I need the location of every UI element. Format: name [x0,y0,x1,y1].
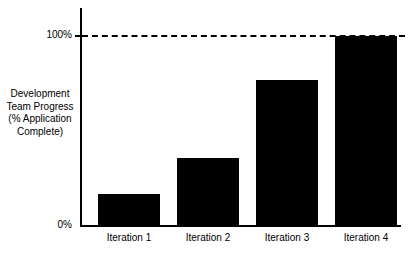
x-axis-label-iteration-4: Iteration 4 [327,232,405,243]
x-axis-label-iteration-1: Iteration 1 [90,232,168,243]
y-axis-title-line-3: (% Application [4,113,76,126]
y-axis-title-line-2: Team Progress [4,101,76,114]
bar-iteration-2 [177,158,239,226]
x-axis-label-iteration-2: Iteration 2 [169,232,247,243]
y-tick-label-100: 100% [0,29,72,40]
y-tick-label-0: 0% [0,219,72,230]
y-axis-title: Development Team Progress (% Application… [4,88,76,138]
y-axis-title-line-1: Development [4,88,76,101]
bar-chart: Development Team Progress (% Application… [0,0,413,261]
plot-area [82,8,401,226]
x-axis-labels: Iteration 1 Iteration 2 Iteration 3 Iter… [82,232,401,248]
x-axis-label-iteration-3: Iteration 3 [248,232,326,243]
bar-iteration-3 [256,80,318,226]
y-axis-tick-mark-100 [75,35,81,37]
bar-iteration-4 [335,36,397,226]
bar-iteration-1 [98,194,160,226]
y-axis-title-line-4: Complete) [4,126,76,139]
